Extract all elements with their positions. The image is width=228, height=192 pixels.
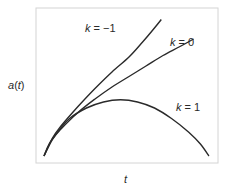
curve-k-0 [44,39,194,156]
x-axis-label: t [124,173,128,185]
series-label-k-neg1: k = −1 [85,22,116,34]
k-1-eq: = 1 [182,101,201,113]
plot-frame [36,8,218,163]
scale-factor-chart: k = −1 k = 0 k = 1 a(t) t [0,0,228,192]
series-label-k-1: k = 1 [176,101,200,113]
curve-k-neg1 [44,20,161,157]
y-axis-label: a(t) [8,79,25,91]
k-0-eq: = 0 [176,36,195,48]
k-neg1-eq: = −1 [91,22,116,34]
series-label-k-0: k = 0 [170,36,194,48]
